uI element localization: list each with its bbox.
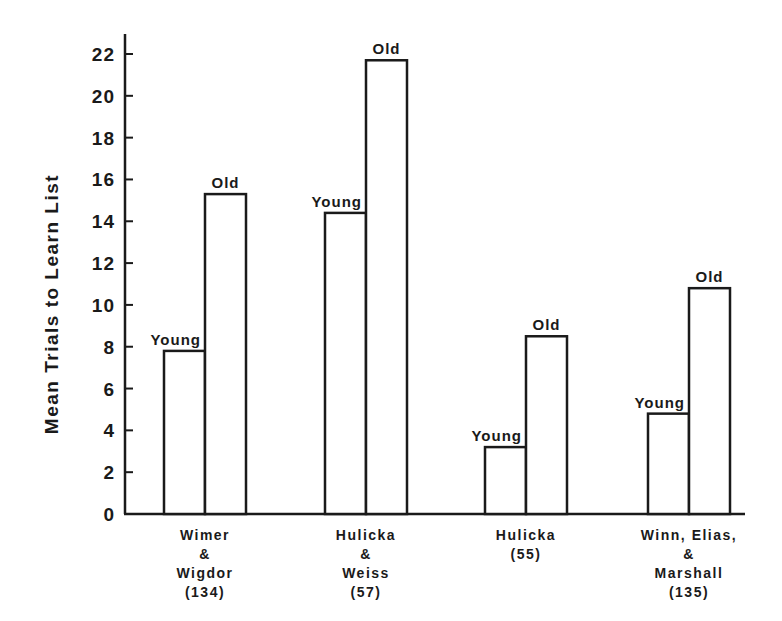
y-tick-label: 6 [103,379,115,400]
x-category-label: (55) [511,546,542,562]
bar-young [648,414,689,514]
y-tick-label: 4 [103,420,115,441]
bar-value-label: Old [696,268,724,285]
y-tick-label: 18 [92,128,115,149]
x-category-label: Hulicka [336,527,396,543]
y-tick-label: 0 [103,504,115,525]
y-axis-ticks: 0246810121416182022 [92,44,133,525]
bar-old [526,336,567,514]
y-axis-title: Mean Trials to Learn List [41,174,62,434]
bar-value-label: Young [634,394,685,411]
category-labels: Wimer&Wigdor(134)Hulicka&Weiss(57)Hulick… [176,527,737,600]
bar-old [205,194,246,514]
x-category-label: Hulicka [496,527,556,543]
bar-value-label: Young [150,331,201,348]
bar-value-label: Old [533,316,561,333]
bar-value-label: Young [471,427,522,444]
y-axis-label: Mean Trials to Learn List [41,174,62,434]
y-tick-label: 2 [103,462,115,483]
x-category-label: (134) [185,584,225,600]
x-category-label: (135) [669,584,709,600]
x-category-label: (57) [351,584,382,600]
y-tick-label: 20 [92,86,115,107]
x-category-label: Winn, Elias, [641,527,737,543]
bar-young [164,351,205,514]
y-tick-label: 22 [92,44,115,65]
x-category-label: Weiss [342,565,390,581]
bar-old [366,60,407,514]
y-tick-label: 12 [92,253,115,274]
bar-value-label: Young [311,193,362,210]
x-category-label: & [683,546,695,562]
x-category-label: Marshall [655,565,724,581]
bar-value-label: Old [212,174,240,191]
bar-young [485,447,526,514]
bar-chart: Mean Trials to Learn List 02468101214161… [0,0,782,621]
x-category-label: Wimer [180,527,230,543]
y-tick-label: 14 [92,211,115,232]
y-tick-label: 16 [92,169,115,190]
x-category-label: Wigdor [176,565,233,581]
bar-old [689,288,730,514]
bars: YoungOldYoungOldYoungOldYoungOld [150,40,730,514]
bar-young [325,213,366,514]
y-tick-label: 8 [103,337,115,358]
bar-value-label: Old [373,40,401,57]
y-tick-label: 10 [92,295,115,316]
x-category-label: & [360,546,372,562]
x-category-label: & [199,546,211,562]
